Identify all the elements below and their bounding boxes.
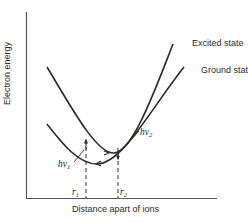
y-axis-label: Electron energy <box>2 42 12 105</box>
hv1-subscript: 1 <box>67 163 70 170</box>
hv2-leader <box>123 131 139 149</box>
r1-label: r1 <box>72 187 79 198</box>
hv1-symbol: hν <box>58 159 67 169</box>
excited-state-curve <box>47 44 173 153</box>
hv1-label: hν1 <box>58 159 70 170</box>
hv2-symbol: hν <box>140 127 149 137</box>
excited-label-leader <box>173 43 191 44</box>
configuration-coordinate-diagram: Electron energy Distance apart of ions E… <box>0 0 248 223</box>
r2-label: r2 <box>120 187 127 198</box>
excited-state-label: Excited state <box>192 38 244 48</box>
hv2-label: hν2 <box>140 127 152 138</box>
hv2-subscript: 2 <box>149 131 152 138</box>
ground-state-curve <box>47 67 184 164</box>
x-axis-label: Distance apart of ions <box>72 204 159 214</box>
ground-state-label: Ground state <box>201 65 248 75</box>
r1-subscript: 1 <box>76 191 79 198</box>
r2-subscript: 2 <box>124 191 127 198</box>
